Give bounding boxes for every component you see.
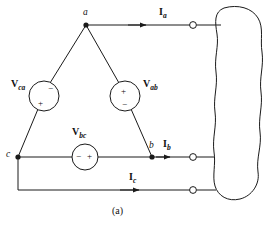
wire-vca-to-c — [18, 109, 38, 157]
polarity-plus-vab: + — [121, 87, 126, 96]
figure-container: a b c Vca Vab Vbc − + + − − + Ia Ib Ic (… — [0, 0, 278, 230]
node-dot-c — [15, 154, 20, 159]
source-label-vca: Vca — [11, 79, 25, 92]
current-label-ic: Ic — [129, 172, 136, 185]
source-label-vbc-sub: bc — [79, 131, 86, 140]
current-label-ib: Ib — [163, 139, 171, 152]
node-label-b: b — [149, 141, 154, 151]
wire-a-to-vca — [50, 25, 86, 83]
current-label-ia-sub: a — [163, 11, 167, 20]
circuit-diagram-svg — [0, 0, 278, 230]
terminal-b[interactable] — [190, 154, 197, 161]
terminal-a[interactable] — [190, 22, 197, 29]
source-label-vab: Vab — [143, 79, 158, 92]
line-conductor-c — [18, 157, 190, 190]
polarity-minus-vca: − — [48, 84, 53, 93]
figure-caption: (a) — [112, 206, 123, 216]
polarity-minus-vab: − — [122, 100, 127, 109]
current-label-ib-sub: b — [167, 143, 171, 152]
node-label-c: c — [6, 150, 10, 160]
current-label-ia: Ia — [159, 7, 167, 20]
source-label-vca-sub: ca — [18, 83, 25, 92]
node-dot-b — [149, 154, 154, 159]
node-dot-a — [83, 22, 88, 27]
polarity-plus-vbc: + — [87, 152, 92, 161]
load-network-blob — [214, 6, 263, 199]
current-label-ic-sub: c — [133, 176, 136, 185]
source-label-vab-sub: ab — [150, 83, 158, 92]
source-label-vbc: Vbc — [72, 127, 86, 140]
polarity-minus-vbc: − — [76, 152, 81, 161]
source-circle-vca — [29, 81, 59, 111]
wire-a-to-vab — [86, 25, 119, 83]
terminal-c[interactable] — [190, 187, 197, 194]
node-label-a: a — [83, 8, 88, 18]
polarity-plus-vca: + — [38, 99, 43, 108]
